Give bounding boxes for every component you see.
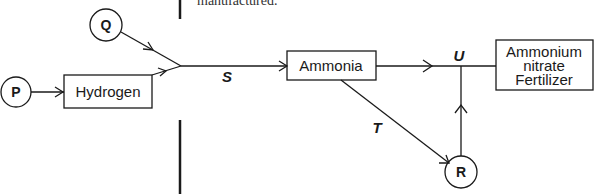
node-r-label: R <box>456 164 466 180</box>
hydrogen-label: Hydrogen <box>75 83 140 100</box>
fertilizer-label-line3: Fertilizer <box>515 71 573 88</box>
flow-diagram: P Q R Hydrogen Ammonia Ammonium nitrate … <box>0 0 596 194</box>
node-q-label: Q <box>101 17 112 33</box>
edge-t <box>341 80 449 163</box>
node-p-label: P <box>11 84 20 100</box>
edge-label-u: U <box>454 47 466 64</box>
ammonia-label: Ammonia <box>299 57 363 74</box>
edge-q-junction <box>121 32 181 66</box>
edge-label-t: T <box>372 119 383 136</box>
edge-label-s: S <box>222 68 232 85</box>
